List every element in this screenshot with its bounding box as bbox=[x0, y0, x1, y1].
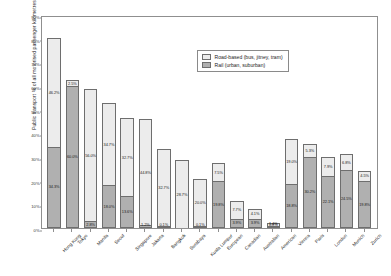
legend-item-rail: Rail (urban, suburban) bbox=[202, 62, 283, 68]
bar-value-label: 32.7% bbox=[158, 186, 169, 190]
x-axis-tick-label: Canadian bbox=[244, 233, 262, 251]
bar-value-label: 22.1% bbox=[323, 200, 334, 204]
bar-segment-road[interactable]: 7.7% bbox=[230, 201, 244, 219]
plot-inner: 46.2%34.3%2.5%60.0%56.0%2.8%34.7%18.0%32… bbox=[42, 17, 377, 228]
bar-column[interactable]: 4.5%19.8% bbox=[358, 17, 372, 228]
bar-value-label: 5.3% bbox=[306, 149, 315, 153]
x-axis-tick-label: Zurich bbox=[369, 233, 382, 246]
bar-column[interactable]: 32.7%0.1% bbox=[157, 17, 171, 228]
bar-segment-rail[interactable]: 19.8% bbox=[212, 181, 226, 228]
bar-value-label: 34.3% bbox=[49, 185, 60, 189]
y-axis-tick-label: 20% bbox=[31, 180, 42, 185]
bar-segment-road[interactable]: 6.8% bbox=[340, 154, 354, 170]
bar-column[interactable]: 46.2%34.3% bbox=[47, 17, 61, 228]
y-axis-tick-label: 50% bbox=[31, 109, 42, 114]
bar-segment-rail[interactable]: 60.0% bbox=[66, 86, 80, 228]
bar-column[interactable]: 56.0%2.8% bbox=[84, 17, 98, 228]
bar-segment-road[interactable]: 32.7% bbox=[157, 149, 171, 226]
bar-segment-rail[interactable]: 22.1% bbox=[321, 176, 335, 228]
bar-segment-rail[interactable]: 18.8% bbox=[285, 184, 299, 228]
x-axis-tick-label: Paris bbox=[314, 233, 325, 244]
bar-segment-rail[interactable]: 1.2% bbox=[139, 225, 153, 228]
bar-segment-road[interactable]: 44.8% bbox=[139, 119, 153, 225]
bar-segment-road[interactable]: 34.7% bbox=[102, 103, 116, 185]
y-axis-tick-label: 10% bbox=[31, 204, 42, 209]
bar-segment-road[interactable]: 7.9% bbox=[321, 157, 335, 176]
bar-value-label: 1.2% bbox=[141, 223, 150, 227]
bar-segment-road[interactable]: 28.7% bbox=[175, 160, 189, 228]
bar-column[interactable]: 44.8%1.2% bbox=[139, 17, 153, 228]
bar-segment-road[interactable]: 20.0% bbox=[193, 179, 207, 226]
bar-segment-road[interactable]: 5.3% bbox=[303, 144, 317, 157]
bar-column[interactable]: 1.4%0.8% bbox=[267, 17, 281, 228]
x-axis-tick-label: Surabaya bbox=[189, 233, 207, 251]
bar-column[interactable]: 4.1%3.9% bbox=[248, 17, 262, 228]
bar-group: 46.2%34.3%2.5%60.0%56.0%2.8%34.7%18.0%32… bbox=[42, 17, 377, 228]
bar-segment-road[interactable]: 46.2% bbox=[47, 38, 61, 147]
bar-column[interactable]: 2.5%60.0% bbox=[66, 17, 80, 228]
x-axis-tick-label: Manila bbox=[96, 233, 109, 246]
bar-value-label: 44.8% bbox=[140, 171, 151, 175]
bar-column[interactable]: 19.0%18.8% bbox=[285, 17, 299, 228]
bar-segment-rail[interactable]: 24.5% bbox=[340, 170, 354, 228]
x-axis-tick-label: Munich bbox=[352, 233, 366, 247]
x-axis-labels: Hong KongTokyoManilaSeoulSingaporeJakart… bbox=[41, 231, 378, 276]
bar-segment-rail[interactable]: 0.1% bbox=[157, 226, 171, 228]
bar-segment-rail[interactable]: 30.2% bbox=[303, 157, 317, 228]
x-axis-tick-label: Seoul bbox=[113, 233, 125, 245]
bar-segment-road[interactable]: 4.1% bbox=[248, 209, 262, 219]
bar-value-label: 18.0% bbox=[104, 205, 115, 209]
x-axis-tick-label: Jakarta bbox=[151, 233, 165, 247]
bar-column[interactable]: 28.7% bbox=[175, 17, 189, 228]
legend-swatch-rail-icon bbox=[202, 62, 211, 68]
bar-value-label: 32.7% bbox=[122, 156, 133, 160]
legend-label-road: Road-based (bus, jitney, tram) bbox=[215, 54, 283, 60]
y-axis-tick-label: 30% bbox=[31, 157, 42, 162]
bar-value-label: 46.2% bbox=[49, 91, 60, 95]
bar-column[interactable]: 6.8%24.5% bbox=[340, 17, 354, 228]
y-axis-tick-label: 90% bbox=[31, 15, 42, 20]
bar-segment-rail[interactable]: 2.8% bbox=[84, 221, 98, 228]
bar-segment-rail[interactable]: 0.8% bbox=[267, 226, 281, 228]
y-axis-tick-label: 70% bbox=[31, 62, 42, 67]
bar-value-label: 30.2% bbox=[304, 190, 315, 194]
bar-value-label: 7.9% bbox=[324, 165, 333, 169]
bar-value-label: 6.8% bbox=[342, 161, 351, 165]
plot-area: 46.2%34.3%2.5%60.0%56.0%2.8%34.7%18.0%32… bbox=[41, 16, 378, 229]
x-axis-tick-label: Australian bbox=[262, 233, 280, 251]
legend-item-road: Road-based (bus, jitney, tram) bbox=[202, 54, 283, 60]
bar-segment-rail[interactable]: 3.9% bbox=[248, 219, 262, 228]
bar-column[interactable]: 5.3%30.2% bbox=[303, 17, 317, 228]
bar-segment-rail[interactable]: 34.3% bbox=[47, 147, 61, 228]
bar-value-label: 7.5% bbox=[214, 171, 223, 175]
legend-swatch-road-icon bbox=[202, 54, 211, 60]
bar-segment-road[interactable]: 4.5% bbox=[358, 171, 372, 182]
bar-segment-road[interactable]: 32.7% bbox=[120, 118, 134, 195]
x-axis-tick-label: Bangkok bbox=[170, 233, 186, 249]
bar-column[interactable]: 32.7%13.6% bbox=[120, 17, 134, 228]
bar-value-label: 0.1% bbox=[159, 223, 168, 227]
bar-value-label: 4.1% bbox=[251, 212, 260, 216]
bar-segment-rail[interactable]: 19.8% bbox=[358, 181, 372, 228]
bar-value-label: 0.1% bbox=[196, 223, 205, 227]
bar-column[interactable]: 7.7%3.9% bbox=[230, 17, 244, 228]
bar-value-label: 19.8% bbox=[359, 203, 370, 207]
bar-segment-road[interactable]: 19.0% bbox=[285, 139, 299, 184]
bar-value-label: 18.8% bbox=[286, 204, 297, 208]
bar-value-label: 19.8% bbox=[213, 203, 224, 207]
x-axis-tick-label: American bbox=[280, 233, 298, 251]
bar-column[interactable]: 7.5%19.8% bbox=[212, 17, 226, 228]
bar-segment-rail[interactable]: 18.0% bbox=[102, 185, 116, 228]
bar-value-label: 2.8% bbox=[86, 223, 95, 227]
x-axis-tick-label: Vienna bbox=[297, 233, 311, 247]
bar-segment-road[interactable]: 7.5% bbox=[212, 163, 226, 181]
bar-segment-rail[interactable]: 0.1% bbox=[193, 226, 207, 228]
bar-column[interactable]: 7.9%22.1% bbox=[321, 17, 335, 228]
bar-segment-rail[interactable]: 13.6% bbox=[120, 196, 134, 228]
bar-segment-road[interactable]: 56.0% bbox=[84, 89, 98, 222]
bar-value-label: 3.9% bbox=[232, 221, 241, 225]
y-axis-title: Public transport % of all motorised pass… bbox=[31, 0, 37, 153]
bar-segment-rail[interactable]: 3.9% bbox=[230, 219, 244, 228]
bar-column[interactable]: 34.7%18.0% bbox=[102, 17, 116, 228]
bar-column[interactable]: 20.0%0.1% bbox=[193, 17, 207, 228]
